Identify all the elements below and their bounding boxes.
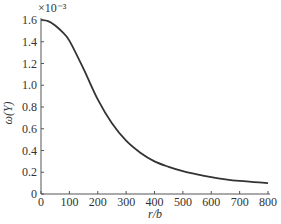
- axes: 010020030040050060070080000.20.40.60.81.…: [22, 13, 277, 209]
- x-axis-label: r/b: [148, 207, 162, 221]
- x-tick-label: 500: [174, 195, 192, 209]
- x-tick-label: 100: [60, 195, 78, 209]
- x-tick-label: 600: [202, 195, 220, 209]
- y-axis-label: ω(Y): [1, 101, 15, 124]
- y-multiplier: ×10⁻³: [38, 1, 67, 15]
- y-tick-label: 1.4: [22, 35, 37, 49]
- y-tick-label: 1.2: [22, 57, 37, 71]
- data-line: [41, 20, 268, 183]
- y-tick-label: 0.8: [22, 100, 37, 114]
- x-tick-label: 200: [89, 195, 107, 209]
- series-line: [41, 20, 268, 183]
- x-tick-label: 700: [231, 195, 249, 209]
- y-tick-label: 1.0: [22, 78, 37, 92]
- y-tick-label: 0: [31, 187, 37, 201]
- y-tick-label: 0.2: [22, 165, 37, 179]
- y-tick-label: 0.4: [22, 144, 37, 158]
- y-tick-label: 1.6: [22, 13, 37, 27]
- chart: 010020030040050060070080000.20.40.60.81.…: [0, 0, 281, 224]
- x-tick-label: 0: [38, 195, 44, 209]
- y-tick-label: 0.6: [22, 122, 37, 136]
- x-tick-label: 800: [259, 195, 277, 209]
- x-tick-label: 300: [117, 195, 135, 209]
